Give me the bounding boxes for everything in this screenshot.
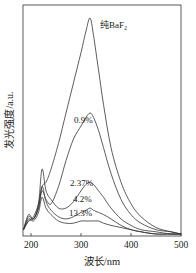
series-label: 13.3% <box>69 208 93 218</box>
series-label: 纯BaF₂ <box>100 19 127 30</box>
series-line <box>24 113 182 234</box>
series-layer <box>24 18 182 234</box>
x-axis-label: 波长/nm <box>84 255 120 267</box>
x-axis-ticks: 200300400500 <box>24 233 189 250</box>
series-label: 4.2% <box>73 194 92 204</box>
x-tick-label: 300 <box>74 240 89 250</box>
series-annotations: 纯BaF₂0.9%2.37%4.2%13.3% <box>69 19 127 218</box>
y-axis-label: 发光强度/a.u. <box>3 91 15 148</box>
series-label: 2.37% <box>70 178 94 188</box>
luminescence-spectrum-chart: 200300400500 纯BaF₂0.9%2.37%4.2%13.3% 波长/… <box>0 0 196 273</box>
x-tick-label: 400 <box>124 240 139 250</box>
series-line <box>24 197 182 234</box>
x-tick-label: 500 <box>174 240 189 250</box>
x-tick-label: 200 <box>24 240 39 250</box>
series-label: 0.9% <box>74 115 93 125</box>
